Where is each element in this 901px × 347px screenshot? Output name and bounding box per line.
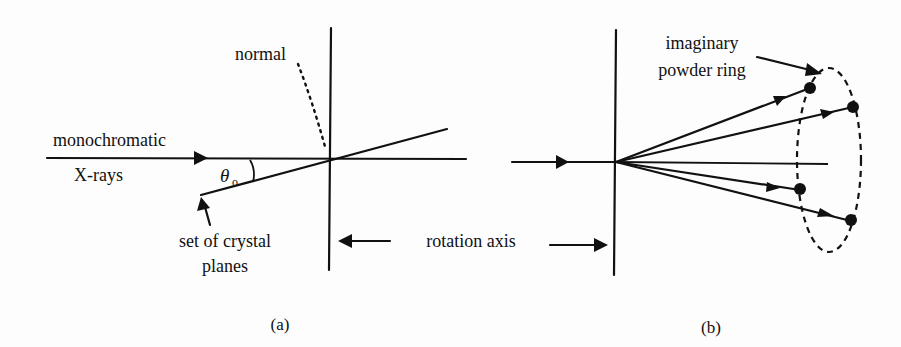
ring-label-line1: imaginary: [666, 33, 739, 53]
diffracted-ray-2: [616, 107, 853, 162]
ring-pointer-line: [757, 57, 810, 70]
ray-3-spot: [794, 183, 806, 195]
ring-label-line2: powder ring: [658, 60, 745, 80]
caption-b: (b): [701, 318, 721, 337]
beam-arrowhead-icon: [194, 151, 208, 165]
normal-label: normal: [235, 44, 286, 64]
normal-dotted-line: [298, 64, 326, 150]
diffraction-diagram: monochromatic X-rays normal θ o set of c…: [0, 0, 901, 347]
beam-b-arrowhead-icon: [556, 155, 569, 169]
ray-4-arrowhead-icon: [817, 208, 834, 217]
incident-beam-a: [47, 158, 466, 159]
panel-b: imaginary powder ring (b): [512, 30, 861, 337]
panel-a: monochromatic X-rays normal θ o set of c…: [47, 28, 466, 334]
rotation-axis-b: [614, 30, 616, 275]
planes-label-line1: set of crystal: [179, 231, 271, 251]
diffracted-ray-4: [616, 162, 851, 221]
theta-symbol: θ: [220, 165, 229, 186]
rotation-axis-label: rotation axis: [426, 231, 515, 251]
planes-arrowhead-icon: [197, 197, 210, 211]
beam-label-bottom: X-rays: [74, 165, 123, 185]
theta-subscript: o: [232, 175, 238, 189]
rotation-axis-arrowhead-left-icon: [338, 234, 352, 248]
planes-pointer-line: [205, 207, 210, 225]
caption-a: (a): [271, 315, 290, 334]
ring-pointer-arrowhead-icon: [805, 63, 822, 76]
rotation-axis-a: [329, 28, 331, 270]
planes-label-line2: planes: [202, 256, 248, 276]
ray-2-arrowhead-icon: [820, 109, 834, 119]
beam-label-top: monochromatic: [53, 130, 166, 150]
angle-arc: [250, 160, 254, 182]
rotation-axis-arrowhead-right-icon: [594, 238, 608, 252]
